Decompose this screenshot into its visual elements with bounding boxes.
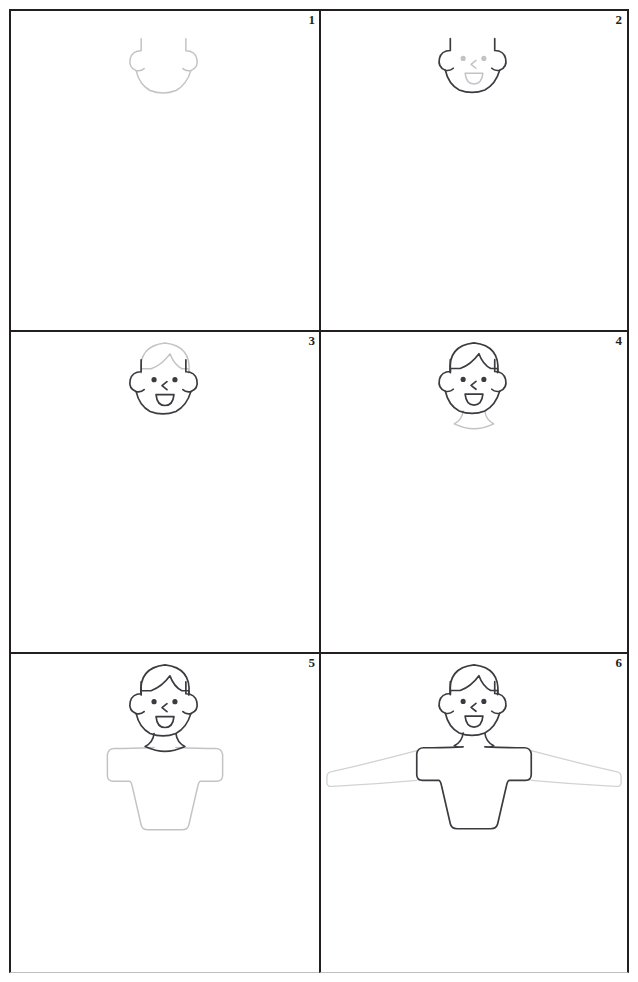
- head-lower-outline-new: [130, 39, 197, 93]
- full-figure-old: [417, 665, 532, 829]
- right-arm: [531, 750, 621, 786]
- step-panel-2[interactable]: 2: [319, 9, 629, 330]
- worksheet-sheet: 1 2: [0, 0, 638, 982]
- right-eye: [481, 56, 486, 61]
- step-panel-5[interactable]: 5: [9, 652, 319, 973]
- drawing-step-2: [321, 11, 627, 330]
- drawing-step-5: [11, 654, 319, 972]
- drawing-step-6: [321, 654, 627, 972]
- step-panel-3[interactable]: 3: [9, 330, 319, 651]
- face-features-new: [461, 56, 487, 84]
- nose: [471, 60, 476, 68]
- head-face-hair-neck-old: [130, 665, 197, 751]
- head-and-face-old: [130, 360, 197, 414]
- drawing-step-1: [11, 11, 319, 330]
- hair-new: [141, 343, 189, 373]
- drawing-step-4: [321, 332, 627, 651]
- torso-tshirt: [107, 747, 222, 829]
- torso-new: [107, 747, 222, 829]
- hair-fringe: [141, 354, 189, 373]
- head-face-hair-old: [439, 343, 506, 414]
- drawing-step-3: [11, 332, 319, 651]
- step-panel-1[interactable]: 1: [9, 9, 319, 330]
- left-eye: [461, 56, 466, 61]
- left-arm: [327, 750, 417, 786]
- step-grid: 1 2: [9, 9, 629, 973]
- step-panel-6[interactable]: 6: [319, 652, 629, 973]
- mouth: [465, 73, 483, 84]
- step-panel-4[interactable]: 4: [319, 330, 629, 651]
